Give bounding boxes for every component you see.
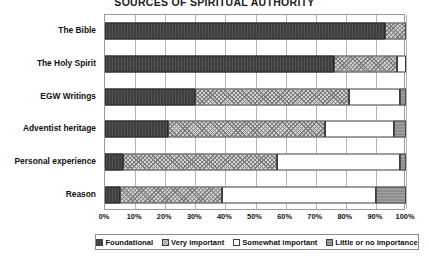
bar-segment-foundational bbox=[105, 154, 123, 171]
legend-swatch-icon bbox=[162, 239, 169, 246]
bar-segment-very_important bbox=[168, 121, 325, 138]
legend-swatch-icon bbox=[96, 239, 103, 246]
legend-label: Little or no importance bbox=[335, 238, 417, 247]
category-label: EGW Writings bbox=[40, 91, 96, 101]
bar-segment-somewhat_important bbox=[397, 56, 406, 73]
legend-swatch-icon bbox=[326, 239, 333, 246]
bar-segment-somewhat_important bbox=[222, 186, 376, 203]
plot-area bbox=[104, 14, 405, 210]
x-tick-label: 30% bbox=[187, 212, 202, 221]
x-tick-label: 20% bbox=[157, 212, 172, 221]
bar-segment-somewhat_important bbox=[277, 154, 400, 171]
bar-segment-very_important bbox=[195, 88, 349, 105]
bar-segment-very_important bbox=[334, 56, 397, 73]
bar-segment-very_important bbox=[120, 186, 222, 203]
bar-segment-foundational bbox=[105, 56, 334, 73]
bar-segment-somewhat_important bbox=[325, 121, 394, 138]
bar-segment-very_important bbox=[123, 154, 277, 171]
legend-item-little_or_none[interactable]: Little or no importance bbox=[326, 238, 417, 247]
bar-segment-little_or_none bbox=[376, 186, 406, 203]
gridline bbox=[406, 15, 407, 209]
bar-segment-little_or_none bbox=[400, 154, 406, 171]
x-tick-label: 90% bbox=[367, 212, 382, 221]
legend-label: Very important bbox=[171, 238, 224, 247]
bar-segment-foundational bbox=[105, 186, 120, 203]
bar-segment-little_or_none bbox=[400, 88, 406, 105]
bar-segment-foundational bbox=[105, 88, 195, 105]
chart-title: SOURCES OF SPIRITUAL AUTHORITY bbox=[0, 0, 429, 8]
category-label: Adventist heritage bbox=[23, 123, 96, 133]
x-tick-label: 70% bbox=[307, 212, 322, 221]
bar-row bbox=[105, 23, 404, 40]
legend-item-somewhat_important[interactable]: Somewhat important bbox=[233, 238, 317, 247]
category-label: Reason bbox=[66, 189, 96, 199]
bar-row bbox=[105, 186, 404, 203]
bar-row bbox=[105, 154, 404, 171]
x-tick-label: 40% bbox=[217, 212, 232, 221]
legend-swatch-icon bbox=[233, 239, 240, 246]
bar-row bbox=[105, 121, 404, 138]
x-tick-label: 10% bbox=[127, 212, 142, 221]
category-label: Personal experience bbox=[15, 156, 96, 166]
legend-item-very_important[interactable]: Very important bbox=[162, 238, 224, 247]
chart-legend: FoundationalVery importantSomewhat impor… bbox=[95, 234, 419, 250]
x-tick-label: 100% bbox=[396, 212, 415, 221]
x-tick-label: 60% bbox=[277, 212, 292, 221]
category-label: The Bible bbox=[58, 25, 96, 35]
bar-row bbox=[105, 56, 404, 73]
bar-segment-very_important bbox=[385, 23, 406, 40]
legend-label: Foundational bbox=[105, 238, 153, 247]
x-tick-label: 80% bbox=[337, 212, 352, 221]
legend-item-foundational[interactable]: Foundational bbox=[96, 238, 153, 247]
bar-row bbox=[105, 88, 404, 105]
category-label: The Holy Spirit bbox=[37, 58, 96, 68]
bar-segment-foundational bbox=[105, 23, 385, 40]
legend-label: Somewhat important bbox=[242, 238, 317, 247]
bar-segment-somewhat_important bbox=[349, 88, 400, 105]
bar-segment-foundational bbox=[105, 121, 168, 138]
x-axis-labels: 0%10%20%30%40%50%60%70%80%90%100% bbox=[104, 212, 405, 226]
bars-layer bbox=[105, 15, 404, 209]
x-tick-label: 50% bbox=[247, 212, 262, 221]
x-tick-label: 0% bbox=[99, 212, 110, 221]
bar-segment-little_or_none bbox=[394, 121, 406, 138]
category-axis-labels: The BibleThe Holy SpiritEGW WritingsAdve… bbox=[0, 14, 100, 210]
chart-root: SOURCES OF SPIRITUAL AUTHORITY The Bible… bbox=[0, 0, 429, 260]
